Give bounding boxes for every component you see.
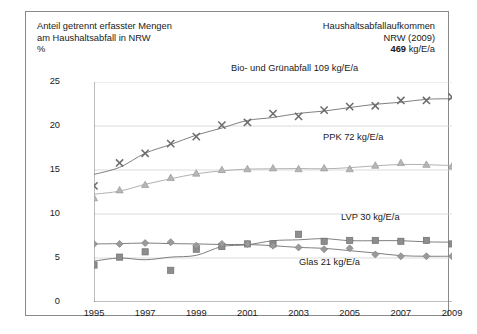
y-axis-tick-label: 20 — [34, 120, 60, 130]
chart-svg — [94, 82, 452, 302]
series-label-lvp: LVP 30 kg/E/a — [341, 212, 400, 222]
chart-header-right: Haushaltsabfallaufkommen NRW (2009) 469 … — [323, 21, 435, 56]
x-axis-tick-label: 1999 — [176, 308, 216, 318]
header-left-line1: Anteil getrennt erfasster Mengen — [37, 21, 172, 33]
series-label-glas: Glas 21 kg/E/a — [299, 257, 360, 267]
x-axis-tick-label: 2005 — [330, 308, 370, 318]
header-right-line3: 469 kg/E/a — [323, 44, 435, 56]
y-axis-tick-label: 10 — [34, 208, 60, 218]
header-right-line1: Haushaltsabfallaufkommen — [323, 21, 435, 33]
haushaltsabfall-unit: kg/E/a — [409, 44, 435, 54]
plot-area — [94, 82, 452, 302]
x-axis-tick-label: 2003 — [279, 308, 319, 318]
x-axis-tick-label: 2009 — [432, 308, 472, 318]
y-axis-tick-label: 5 — [34, 252, 60, 262]
x-axis-tick-label: 2001 — [227, 308, 267, 318]
series-label-ppk: PPK 72 kg/E/a — [323, 132, 383, 142]
chart-header-left: Anteil getrennt erfasster Mengen am Haus… — [37, 21, 172, 56]
header-right-line2: NRW (2009) — [323, 33, 435, 45]
x-axis-tick-label: 1997 — [125, 308, 165, 318]
y-axis-tick-label: 0 — [34, 296, 60, 306]
series-label-bio-und-gr-nabfall: Bio- und Grünabfall 109 kg/E/a — [231, 63, 358, 73]
header-left-line3: % — [37, 44, 172, 56]
chart-frame: Anteil getrennt erfasster Mengen am Haus… — [25, 11, 449, 316]
x-axis-tick-label: 2007 — [381, 308, 421, 318]
haushaltsabfall-value: 469 — [391, 44, 407, 54]
y-axis-tick-label: 15 — [34, 164, 60, 174]
y-axis-tick-label: 25 — [34, 76, 60, 86]
header-left-line2: am Haushaltsabfall in NRW — [37, 33, 172, 45]
x-axis-tick-label: 1995 — [74, 308, 114, 318]
